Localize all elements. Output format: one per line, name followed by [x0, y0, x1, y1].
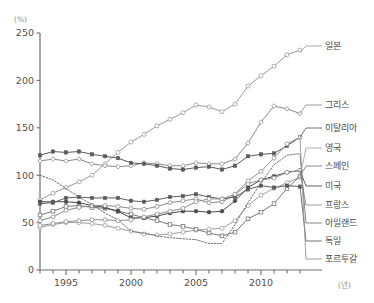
x-axis-tick-label: 2010 [249, 277, 273, 288]
data-point-marker [220, 110, 224, 114]
data-point-marker [51, 191, 55, 195]
y-axis-tick-label: 200 [16, 75, 34, 86]
x-axis-unit-label: (년) [338, 280, 351, 290]
data-point-marker [51, 215, 55, 219]
data-point-marker [129, 206, 133, 210]
data-point-marker [207, 227, 211, 231]
data-point-marker [64, 220, 68, 224]
data-point-marker [64, 205, 68, 209]
data-point-marker [142, 215, 146, 219]
data-point-marker [207, 105, 211, 109]
data-point-marker [38, 213, 42, 217]
data-point-marker [272, 176, 276, 180]
data-point-marker [51, 150, 54, 153]
data-point-marker [38, 223, 42, 227]
data-point-marker [181, 225, 185, 229]
data-point-marker [272, 202, 276, 206]
data-point-marker [259, 74, 263, 78]
data-point-marker [103, 196, 106, 199]
legend-label-8[interactable]: 독일 [325, 236, 341, 246]
data-point-marker [246, 217, 250, 221]
data-point-marker [181, 230, 185, 234]
data-point-marker [246, 188, 249, 191]
legend-leader-line [300, 46, 322, 52]
data-point-marker [103, 155, 106, 158]
x-axis: 1995200020052010 [40, 270, 322, 288]
data-point-marker [116, 226, 120, 230]
data-point-marker [77, 150, 80, 153]
data-point-marker [181, 111, 185, 115]
data-point-marker [246, 84, 250, 88]
data-point-marker [233, 192, 237, 196]
data-point-marker [285, 107, 290, 112]
data-point-marker [207, 210, 211, 214]
legend-label-5[interactable]: 미국 [325, 181, 341, 191]
data-point-marker [90, 196, 93, 199]
legend-leader-line [300, 128, 322, 137]
data-point-marker [129, 140, 133, 144]
data-point-marker [181, 194, 184, 197]
legend-label-1[interactable]: 그리스 [325, 100, 349, 110]
y-axis-unit-group: (%) [14, 15, 27, 24]
data-point-marker [194, 103, 198, 107]
data-point-marker [155, 204, 159, 208]
x-axis-unit-group: (년) [338, 280, 351, 290]
legend-label-7[interactable]: 아일랜드 [325, 218, 357, 228]
data-point-marker [64, 200, 68, 204]
data-point-marker [77, 157, 82, 162]
data-point-marker [181, 206, 185, 210]
data-point-marker [168, 201, 172, 205]
data-point-marker [129, 199, 132, 202]
data-point-marker [77, 219, 81, 223]
data-point-marker [285, 184, 288, 187]
data-point-marker [272, 152, 275, 155]
legend-label-9[interactable]: 포르투갈 [325, 254, 357, 264]
data-point-marker [77, 205, 81, 209]
chart-container: (%) (년) 050100150200250 1995200020052010… [0, 0, 374, 303]
data-point-marker [207, 197, 211, 201]
data-point-marker [51, 201, 54, 204]
data-point-marker [142, 162, 145, 165]
data-point-marker [194, 161, 199, 166]
data-point-marker [155, 164, 158, 167]
data-point-marker [285, 170, 289, 174]
legend-label-2[interactable]: 이탈리아 [325, 123, 358, 133]
series-layer [38, 48, 303, 243]
data-point-marker [155, 198, 158, 201]
data-point-marker [194, 166, 197, 169]
y-axis-tick-label: 250 [16, 27, 34, 38]
data-point-marker [116, 164, 121, 169]
data-point-marker [142, 200, 145, 203]
y-axis-tick-label: 150 [16, 122, 34, 133]
y-axis-tick-label: 0 [28, 264, 34, 275]
data-point-marker [168, 232, 172, 236]
data-point-marker [246, 155, 249, 158]
legend-layer: 일본그리스이탈리아영국스페인미국프랑스아일랜드독일포르투갈 [325, 41, 358, 264]
data-point-marker [220, 209, 224, 213]
legend-label-6[interactable]: 프랑스 [325, 199, 349, 210]
data-point-marker [77, 180, 81, 184]
data-point-marker [194, 227, 198, 231]
data-point-marker [38, 154, 41, 157]
data-point-marker [233, 102, 237, 106]
data-point-marker [168, 209, 172, 213]
legend-label-4[interactable]: 스페인 [325, 161, 349, 171]
legend-label-0[interactable]: 일본 [325, 41, 341, 51]
data-point-marker [272, 156, 276, 160]
data-point-marker [194, 192, 197, 195]
data-point-marker [129, 218, 133, 222]
data-point-marker [116, 150, 120, 154]
data-point-marker [51, 209, 55, 213]
legend-label-3[interactable]: 영국 [325, 143, 341, 153]
data-point-marker [181, 199, 185, 203]
data-point-marker [64, 208, 68, 212]
y-axis: 050100150200250 [16, 27, 40, 275]
data-point-marker [64, 159, 69, 164]
data-point-marker [38, 159, 43, 164]
data-point-marker [90, 218, 94, 222]
data-point-marker [259, 184, 262, 187]
data-point-marker [64, 196, 67, 199]
data-point-marker [51, 157, 56, 162]
data-point-marker [129, 161, 132, 164]
series-1 [38, 104, 303, 169]
